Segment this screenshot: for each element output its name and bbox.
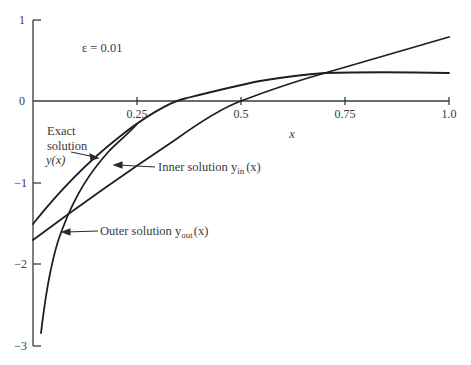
- exact-solution-curve: [33, 72, 449, 224]
- inner-arrowhead-icon: [114, 162, 122, 168]
- y-tick-0: 0: [19, 94, 25, 108]
- y-tick-minus1: −1: [14, 176, 27, 190]
- axes: [33, 20, 449, 346]
- x-tick-labels: 0.25 0.5 0.75 1.0: [127, 107, 457, 121]
- svg-text:Exact: Exact: [47, 124, 76, 138]
- outer-arrow: [66, 231, 98, 232]
- x-tick-0.75: 0.75: [335, 107, 356, 121]
- x-tick-0.5: 0.5: [234, 107, 249, 121]
- x-axis-label: x: [288, 127, 295, 141]
- svg-text:y(x): y(x): [44, 153, 65, 167]
- svg-text:Inner solution yin(x): Inner solution yin(x): [158, 160, 261, 176]
- y-tick-1: 1: [19, 13, 25, 27]
- chart-canvas: 1 0 −1 −2 −3 0.25 0.5 0.75 1.0 x ε = 0.0…: [0, 0, 471, 365]
- inner-solution-label: Inner solution yin(x): [158, 160, 261, 176]
- x-tick-1.0: 1.0: [442, 107, 457, 121]
- y-tick-minus3: −3: [14, 339, 27, 353]
- exact-solution-label: Exact solution y(x): [44, 124, 88, 167]
- outer-arrowhead-icon: [62, 229, 70, 235]
- y-tick-labels: 1 0 −1 −2 −3: [14, 13, 27, 353]
- svg-text:Outer solution yout(x): Outer solution yout(x): [100, 224, 208, 240]
- outer-solution-label: Outer solution yout(x): [100, 224, 208, 240]
- y-tick-minus2: −2: [14, 257, 27, 271]
- svg-text:solution: solution: [47, 139, 88, 153]
- epsilon-annotation: ε = 0.01: [82, 41, 122, 55]
- inner-solution-curve: [33, 37, 449, 240]
